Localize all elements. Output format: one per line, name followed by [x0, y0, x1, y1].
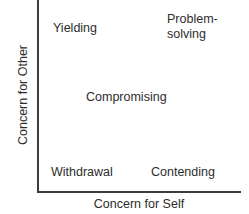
- label-withdrawal: Withdrawal: [51, 165, 113, 180]
- label-problem-solving-line2: solving: [167, 27, 218, 42]
- y-axis-title: Concern for Other: [16, 15, 30, 175]
- x-axis-title: Concern for Self: [37, 197, 241, 211]
- y-axis-line: [37, 0, 39, 193]
- label-yielding: Yielding: [53, 21, 97, 36]
- label-problem-solving-line1: Problem-: [167, 12, 218, 26]
- x-axis-line: [37, 191, 241, 193]
- dual-concern-model-figure: Concern for Other Concern for Self Yield…: [0, 0, 249, 214]
- label-contending: Contending: [151, 165, 215, 180]
- label-compromising: Compromising: [86, 90, 167, 105]
- label-problem-solving: Problem- solving: [167, 12, 218, 42]
